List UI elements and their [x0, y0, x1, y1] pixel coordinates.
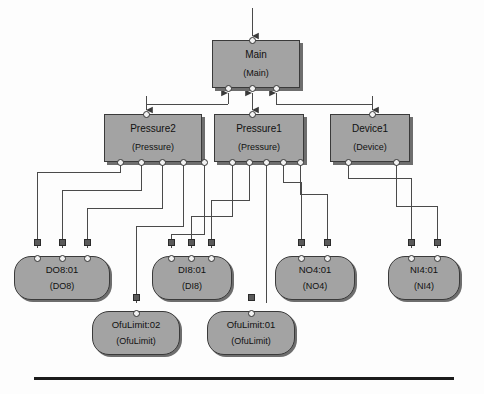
- node-no4-type: (NO4): [303, 281, 328, 292]
- node-do8[interactable]: DO8:01 (DO8): [14, 256, 110, 300]
- node-ni4-label: NI4:01: [410, 264, 438, 275]
- node-ofulimit02-type: (OfuLimit): [116, 336, 156, 347]
- node-do8-label: DO8:01: [46, 264, 79, 275]
- port-pressure1-out-3[interactable]: [263, 159, 270, 166]
- port-device1-out-2[interactable]: [393, 159, 400, 166]
- terminator-do8-2: [59, 239, 66, 246]
- terminator-no4-1: [298, 239, 305, 246]
- port-pressure2-in[interactable]: [143, 111, 150, 118]
- node-no4-label: NO4:01: [299, 264, 332, 275]
- node-pressure2-type: (Pressure): [132, 142, 174, 153]
- port-di8-in-1[interactable]: [168, 255, 175, 262]
- port-device1-in[interactable]: [369, 111, 376, 118]
- port-pressure2-out-2[interactable]: [138, 159, 145, 166]
- node-pressure1[interactable]: Pressure1 (Pressure): [214, 114, 304, 162]
- port-pressure2-out-3[interactable]: [159, 159, 166, 166]
- port-pressure1-in[interactable]: [249, 111, 256, 118]
- node-do8-type: (DO8): [50, 281, 75, 292]
- terminator-ofulimit02: [133, 294, 140, 301]
- port-di8-in-2[interactable]: [188, 255, 195, 262]
- port-ofulimit02-in[interactable]: [133, 310, 140, 317]
- node-ni4[interactable]: NI4:01 (NI4): [388, 256, 460, 300]
- terminator-di8-1: [168, 239, 175, 246]
- horizontal-rule: [34, 377, 454, 380]
- terminator-di8-3: [208, 239, 215, 246]
- port-do8-in-1[interactable]: [34, 255, 41, 262]
- port-no4-in-2[interactable]: [324, 255, 331, 262]
- node-ofulimit01-type: (OfuLimit): [231, 336, 271, 347]
- port-pressure1-out-4[interactable]: [280, 159, 287, 166]
- node-pressure2[interactable]: Pressure2 (Pressure): [104, 114, 202, 162]
- terminator-di8-2: [188, 239, 195, 246]
- port-main-out-1[interactable]: [225, 85, 232, 92]
- port-pressure1-out-1[interactable]: [229, 159, 236, 166]
- node-di8-label: DI8:01: [178, 264, 206, 275]
- port-pressure2-out-4[interactable]: [180, 159, 187, 166]
- terminator-ni4-1: [408, 239, 415, 246]
- terminator-do8-3: [84, 239, 91, 246]
- port-do8-in-3[interactable]: [84, 255, 91, 262]
- port-device1-out-1[interactable]: [345, 159, 352, 166]
- port-main-out-2[interactable]: [249, 85, 256, 92]
- node-pressure2-label: Pressure2: [130, 123, 176, 135]
- port-ofulimit01-in[interactable]: [248, 310, 255, 317]
- port-main-out-3[interactable]: [273, 85, 280, 92]
- node-ofulimit02[interactable]: OfuLimit:02 (OfuLimit): [92, 311, 180, 355]
- port-pressure1-out-2[interactable]: [246, 159, 253, 166]
- node-di8[interactable]: DI8:01 (DI8): [152, 256, 232, 300]
- port-main-in[interactable]: [249, 37, 256, 44]
- node-device1-label: Device1: [352, 123, 388, 135]
- terminator-ofulimit01: [248, 294, 255, 301]
- node-no4[interactable]: NO4:01 (NO4): [275, 256, 355, 300]
- port-ni4-in-1[interactable]: [408, 255, 415, 262]
- terminator-ni4-2: [434, 239, 441, 246]
- port-do8-in-2[interactable]: [59, 255, 66, 262]
- node-device1[interactable]: Device1 (Device): [330, 114, 410, 162]
- port-ni4-in-2[interactable]: [434, 255, 441, 262]
- node-pressure1-type: (Pressure): [238, 142, 280, 153]
- port-pressure2-out-5[interactable]: [201, 159, 208, 166]
- diagram-canvas: Main (Main) Pressure2 (Pressure) Pressur…: [0, 0, 484, 394]
- node-main-label: Main: [245, 49, 267, 61]
- node-main-type: (Main): [243, 68, 269, 79]
- node-ofulimit02-label: OfuLimit:02: [112, 319, 161, 330]
- node-pressure1-label: Pressure1: [236, 123, 282, 135]
- node-device1-type: (Device): [353, 142, 387, 153]
- port-pressure2-out-1[interactable]: [117, 159, 124, 166]
- node-ni4-type: (NI4): [414, 281, 434, 292]
- node-main[interactable]: Main (Main): [212, 40, 300, 88]
- node-ofulimit01-label: OfuLimit:01: [227, 319, 276, 330]
- port-di8-in-3[interactable]: [208, 255, 215, 262]
- port-no4-in-1[interactable]: [298, 255, 305, 262]
- terminator-do8-1: [34, 239, 41, 246]
- port-pressure1-out-5[interactable]: [297, 159, 304, 166]
- node-ofulimit01[interactable]: OfuLimit:01 (OfuLimit): [207, 311, 295, 355]
- node-di8-type: (DI8): [182, 281, 202, 292]
- terminator-no4-2: [324, 239, 331, 246]
